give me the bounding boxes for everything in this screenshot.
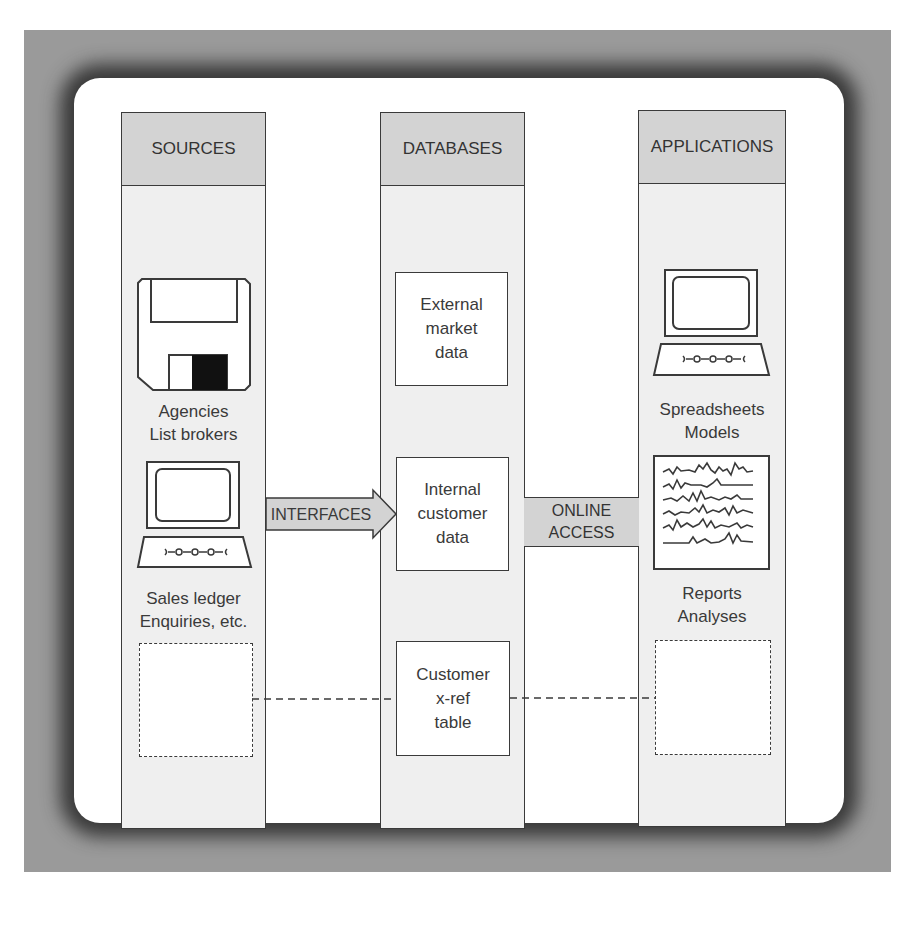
column-header-sources: SOURCES	[122, 113, 265, 186]
box-external-market-data: External market data	[395, 272, 508, 386]
floppy-disk-icon	[136, 277, 251, 392]
label-agencies-list-brokers: Agencies List brokers	[121, 400, 266, 446]
column-header-databases: DATABASES	[381, 113, 524, 186]
interfaces-label: INTERFACES	[266, 503, 376, 526]
label-reports-analyses: Reports Analyses	[638, 582, 786, 628]
column-header-applications: APPLICATIONS	[639, 111, 785, 184]
dashed-link-left	[252, 698, 397, 702]
report-chart-icon	[653, 455, 770, 570]
placeholder-box-applications	[655, 640, 771, 755]
box-internal-customer-data: Internal customer data	[396, 457, 509, 571]
label-sales-ledger-enquiries: Sales ledger Enquiries, etc.	[121, 587, 266, 633]
label-spreadsheets-models: Spreadsheets Models	[638, 398, 786, 444]
computer-terminal-icon	[137, 460, 253, 570]
dashed-link-right	[510, 697, 656, 701]
online-access-connector: ONLINE ACCESS	[524, 497, 639, 547]
computer-terminal-icon	[653, 268, 771, 378]
placeholder-box-sources	[139, 643, 253, 757]
box-customer-xref-table: Customer x-ref table	[396, 641, 510, 756]
